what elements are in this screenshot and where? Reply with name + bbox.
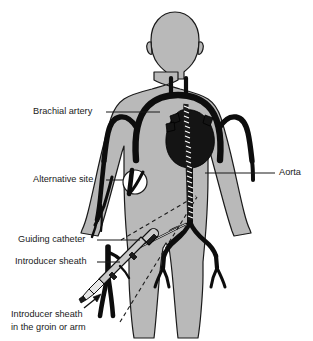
label-introducer-sheath-groin-line1: Introducer sheath xyxy=(11,309,83,319)
femoral-right-branch-a-vessel xyxy=(211,268,217,287)
label-introducer-sheath: Introducer sheath xyxy=(15,256,87,266)
diagram-canvas: Brachial artery Alternative site Aorta G… xyxy=(0,0,313,341)
label-alternative-site: Alternative site xyxy=(33,174,93,184)
label-guiding-catheter: Guiding catheter xyxy=(18,234,85,244)
head-shape xyxy=(151,12,199,79)
label-introducer-sheath-groin-line2: in the groin or arm xyxy=(11,322,86,332)
heart-vessel-stub-shape xyxy=(166,122,175,132)
sheath-side-port xyxy=(120,266,129,278)
brachial-artery-right-vessel xyxy=(252,161,253,180)
femoral-left-vessel xyxy=(163,256,164,268)
femoral-right-branch-b-vessel xyxy=(217,268,225,287)
label-aorta: Aorta xyxy=(279,167,302,177)
femoral-left-branch-b-vessel xyxy=(163,268,169,287)
inset-femoral-branch-b xyxy=(108,275,113,316)
ear-right-shape xyxy=(198,42,203,54)
femoral-right-vessel xyxy=(216,256,217,268)
ear-left-shape xyxy=(147,42,152,54)
anatomical-diagram-svg: Brachial artery Alternative site Aorta G… xyxy=(0,0,313,341)
label-brachial-artery: Brachial artery xyxy=(33,106,93,116)
ulnar-artery-vessel xyxy=(101,205,102,231)
